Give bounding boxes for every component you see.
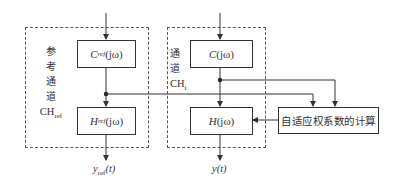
- y-output-label: y(t): [212, 163, 227, 174]
- ref-channel-code: CHref: [40, 104, 62, 124]
- chi-label-char: 通: [170, 46, 180, 61]
- ref-label-char: 通: [46, 74, 56, 89]
- c-block: C(jω): [190, 40, 253, 68]
- y-ref-output-label: yref(t): [93, 163, 115, 177]
- chi-label-char: 道: [170, 61, 180, 76]
- channel-i-label: 通 道 CHi: [170, 46, 190, 96]
- chi-channel-code: CHi: [170, 76, 187, 96]
- ref-label-char: 参: [46, 44, 56, 59]
- ref-label-char: 考: [46, 59, 56, 74]
- ref-label-char: 道: [46, 89, 56, 104]
- adaptive-weight-block: 自适应权系数的计算: [278, 107, 379, 134]
- h-block: H(jω): [190, 107, 253, 135]
- reference-channel-label: 参 考 通 道 CHref: [36, 44, 66, 124]
- c-ref-block: Cref(jω): [77, 40, 136, 68]
- h-ref-block: Href(jω): [77, 107, 136, 135]
